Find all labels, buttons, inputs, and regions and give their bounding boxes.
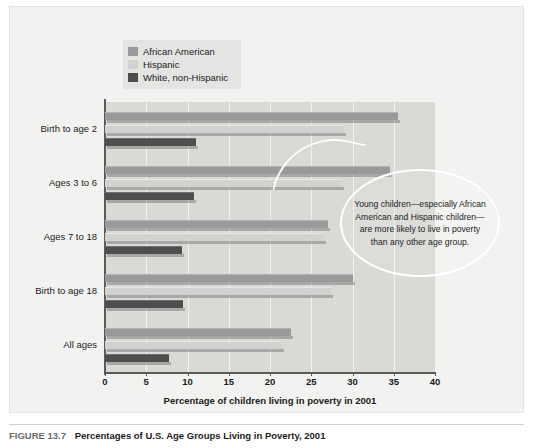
bar-fill xyxy=(105,192,194,200)
legend-item: African American xyxy=(128,45,235,58)
callout-text: Young children—especially African Americ… xyxy=(342,198,498,248)
bar-fill xyxy=(105,125,344,133)
bar xyxy=(105,192,194,200)
bar-shadow xyxy=(107,120,400,123)
bar-shadow xyxy=(107,200,196,203)
x-axis-title: Percentage of children living in poverty… xyxy=(105,395,435,406)
x-tick-label: 15 xyxy=(223,376,234,387)
category-axis-labels: Birth to age 2Ages 3 to 6Ages 7 to 18Bir… xyxy=(2,102,97,372)
bar-fill xyxy=(105,341,282,349)
figure-panel: Birth to age 2Ages 3 to 6Ages 7 to 18Bir… xyxy=(9,6,524,413)
bar-shadow xyxy=(107,362,171,365)
bar-shadow xyxy=(107,295,333,298)
bar-fill xyxy=(105,300,183,308)
bar xyxy=(105,354,169,362)
bar-fill xyxy=(105,328,291,336)
chart-legend: African AmericanHispanicWhite, non-Hispa… xyxy=(123,40,241,89)
figure-caption: FIGURE 13.7 Percentages of U.S. Age Grou… xyxy=(9,430,524,441)
figure-number: FIGURE 13.7 xyxy=(9,430,66,441)
x-tick-label: 5 xyxy=(144,376,149,387)
x-tick-label: 0 xyxy=(102,376,107,387)
figure-page: Birth to age 2Ages 3 to 6Ages 7 to 18Bir… xyxy=(0,0,533,448)
bar xyxy=(105,166,390,174)
category-label: Ages 3 to 6 xyxy=(0,177,97,188)
bar-fill xyxy=(105,220,328,228)
bar-shadow xyxy=(107,146,198,149)
legend-swatch-1 xyxy=(128,47,138,56)
legend-item: White, non-Hispanic xyxy=(128,71,235,84)
bar-fill xyxy=(105,179,342,187)
caption-divider xyxy=(9,424,524,425)
bar-fill xyxy=(105,233,324,241)
bar-shadow xyxy=(107,174,392,177)
bar xyxy=(105,233,324,241)
figure-caption-text: Percentages of U.S. Age Groups Living in… xyxy=(75,430,326,441)
bar-shadow xyxy=(107,336,293,339)
x-tick-label: 10 xyxy=(182,376,193,387)
bar-fill xyxy=(105,354,169,362)
legend-label: African American xyxy=(143,46,215,57)
bar-fill xyxy=(105,166,390,174)
bar xyxy=(105,179,342,187)
bar xyxy=(105,220,328,228)
bar xyxy=(105,246,182,254)
bar-shadow xyxy=(107,228,330,231)
bar xyxy=(105,341,282,349)
bar-fill xyxy=(105,138,196,146)
bar xyxy=(105,287,331,295)
bar-fill xyxy=(105,112,398,120)
bar xyxy=(105,138,196,146)
x-tick-label: 40 xyxy=(430,376,441,387)
callout-bubble: Young children—especially African Americ… xyxy=(340,169,500,277)
legend-swatch-2 xyxy=(128,60,138,69)
bar-shadow xyxy=(107,187,344,190)
bar-shadow xyxy=(107,349,284,352)
bar xyxy=(105,125,344,133)
bar-fill xyxy=(105,274,353,282)
category-label: Ages 7 to 18 xyxy=(0,231,97,242)
category-label: Birth to age 2 xyxy=(0,123,97,134)
bar-shadow xyxy=(107,282,355,285)
bar-fill xyxy=(105,287,331,295)
x-tick-label: 30 xyxy=(347,376,358,387)
x-tick-label: 25 xyxy=(306,376,317,387)
bar-shadow xyxy=(107,133,346,136)
bar-shadow xyxy=(107,254,184,257)
bar xyxy=(105,328,291,336)
x-tick-label: 35 xyxy=(388,376,399,387)
bar-fill xyxy=(105,246,182,254)
x-axis-tick-labels: 0510152025303540 xyxy=(105,376,435,392)
bar xyxy=(105,112,398,120)
bar xyxy=(105,274,353,282)
bar-shadow xyxy=(107,308,185,311)
legend-item: Hispanic xyxy=(128,58,235,71)
x-tick-label: 20 xyxy=(265,376,276,387)
category-label: All ages xyxy=(0,339,97,350)
bar xyxy=(105,300,183,308)
legend-label: Hispanic xyxy=(143,59,179,70)
legend-swatch-3 xyxy=(128,73,138,82)
bar-shadow xyxy=(107,241,326,244)
legend-label: White, non-Hispanic xyxy=(143,72,228,83)
category-label: Birth to age 18 xyxy=(0,285,97,296)
